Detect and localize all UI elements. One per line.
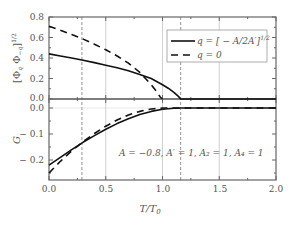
top-y-tick-labels: 0.8 0.6 0.4 0.2 0.0 [30, 12, 45, 103]
x-tick-labels: 0.0 0.5 1.0 1.5 2.0 [42, 184, 284, 194]
xtick-2.0: 2.0 [269, 184, 284, 194]
x-axis-label: T/T0 [139, 203, 161, 216]
top-ytick-0.0: 0.0 [30, 93, 45, 103]
top-ytick-0.2: 0.2 [30, 74, 44, 84]
top-ytick-0.6: 0.6 [30, 33, 45, 43]
figure: 0.8 0.6 0.4 0.2 0.0 0.0 − 0.1 − 0.2 0.0 … [0, 0, 294, 226]
xtick-1.0: 1.0 [156, 184, 171, 194]
top-ytick-0.4: 0.4 [30, 53, 45, 63]
bottom-y-tick-labels: 0.0 − 0.1 − 0.2 [19, 103, 44, 165]
legend: q = [ − A/2A′]1/2 q = 0 [167, 30, 270, 62]
bottom-y-axis-label: G [11, 136, 22, 144]
xtick-1.5: 1.5 [213, 184, 228, 194]
parameter-annotation: A = −0.8, A′ = 1, A₂ = 1, A₄ = 1 [118, 148, 264, 158]
xtick-0.0: 0.0 [42, 184, 57, 194]
legend-solid-label: q = [ − A/2A′]1/2 [197, 34, 270, 46]
top-y-axis-label: [Φq Φ−q]1/2 [10, 33, 24, 83]
bottom-ytick-m0.2: − 0.2 [19, 155, 44, 165]
xtick-0.5: 0.5 [99, 184, 114, 194]
legend-dashed-label: q = 0 [197, 50, 222, 60]
bottom-ytick-m0.1: − 0.1 [19, 129, 44, 139]
top-ytick-0.8: 0.8 [30, 12, 45, 22]
bottom-ytick-0.0: 0.0 [30, 103, 45, 113]
